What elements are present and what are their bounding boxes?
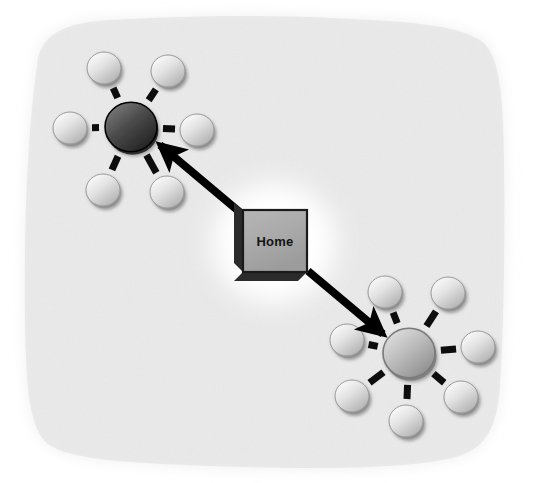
home-box-label: Home	[257, 234, 294, 249]
spoke-node-ul-4	[163, 128, 175, 129]
spoke-node-ul-1	[113, 88, 118, 98]
spoke-node-lr-7	[407, 385, 408, 399]
node-ul-6-face	[150, 176, 184, 208]
network-topology-diagram: Home	[0, 0, 535, 483]
home-box-left-face	[234, 203, 243, 272]
hub-dark-face	[105, 102, 157, 151]
hub-gray-face	[383, 328, 435, 377]
spoke-node-lr-1	[393, 312, 397, 323]
node-lr-7-face	[389, 405, 423, 437]
node-ul-3-face	[53, 112, 87, 144]
spoke-node-lr-4	[441, 349, 456, 350]
home-box-bottom-face	[234, 272, 307, 281]
node-lr-1-face	[368, 276, 402, 308]
node-lr-4-face	[461, 331, 495, 363]
node-lr-5-face	[335, 380, 369, 412]
diagram-canvas: Home	[0, 0, 535, 483]
node-ul-4-face	[180, 114, 214, 146]
node-ul-5-face	[86, 174, 120, 206]
node-lr-3-face	[330, 324, 364, 356]
spoke-node-lr-3	[369, 345, 378, 347]
home-node[interactable]: Home	[234, 203, 307, 281]
node-lr-6-face	[444, 381, 478, 413]
node-ul-1-face	[87, 52, 121, 84]
node-ul-2-face	[151, 55, 185, 87]
node-lr-2-face	[431, 277, 465, 309]
